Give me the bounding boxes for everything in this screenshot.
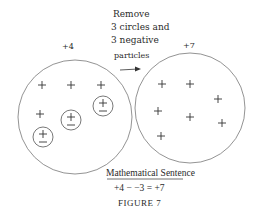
sentence-title: Mathematical Sentence xyxy=(106,168,195,179)
left-circled-pairs xyxy=(33,96,113,147)
right-plus-particles xyxy=(154,80,226,140)
arrow-head-icon xyxy=(135,67,141,72)
instruction-line-4: particles xyxy=(114,50,149,61)
figure-caption: FIGURE 7 xyxy=(118,198,161,209)
instruction-line-2: 3 circles and xyxy=(111,22,169,33)
instruction-line-3: 3 negative xyxy=(111,35,159,46)
instruction-line-1: Remove xyxy=(113,9,149,20)
math-sentence: +4 − −3 = +7 xyxy=(114,183,165,194)
left-plus-particles xyxy=(36,81,105,118)
left-set-label: +4 xyxy=(62,41,74,52)
right-set-label: +7 xyxy=(183,40,195,51)
right-set-circle xyxy=(135,53,245,163)
